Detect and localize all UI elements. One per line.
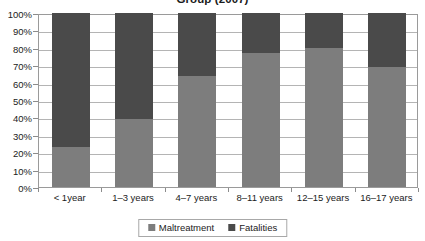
x-tick-label: < 1year (54, 192, 86, 203)
y-tick-label: 30% (13, 130, 32, 141)
y-tick-mark (33, 49, 38, 50)
y-tick-mark (33, 84, 38, 85)
y-tick-label: 80% (13, 43, 32, 54)
x-tick-label: 8–11 years (237, 192, 283, 203)
y-tick-mark (33, 14, 38, 15)
bar-group[interactable] (178, 13, 216, 187)
x-tick-mark (101, 188, 102, 192)
bar-segment-maltreatment[interactable] (305, 48, 343, 187)
legend-label: Maltreatment (159, 222, 214, 233)
chart-legend: MaltreatmentFatalities (138, 219, 287, 237)
gridline (39, 172, 417, 173)
x-tick-mark (38, 188, 39, 192)
x-tick-label: 12–15 years (297, 192, 349, 203)
y-tick-mark (33, 136, 38, 137)
bar-segment-fatalities[interactable] (305, 13, 343, 48)
legend-label: Fatalities (239, 222, 277, 233)
legend-item-fatalities[interactable]: Fatalities (228, 222, 277, 233)
bar-group[interactable] (115, 13, 153, 187)
x-tick-label: 16–17 years (360, 192, 412, 203)
y-tick-mark (33, 31, 38, 32)
bar-group[interactable] (305, 13, 343, 187)
bar-segment-fatalities[interactable] (178, 13, 216, 76)
x-tick-label: 4–7 years (175, 192, 217, 203)
x-tick-mark (291, 188, 292, 192)
x-axis: < 1year1–3 years4–7 years8–11 years12–15… (38, 192, 418, 208)
plot-area (38, 14, 418, 188)
bar-group[interactable] (368, 13, 406, 187)
y-tick-mark (33, 153, 38, 154)
y-tick-label: 20% (13, 148, 32, 159)
gridline (39, 154, 417, 155)
gridline (39, 50, 417, 51)
legend-swatch-icon (148, 224, 155, 231)
bar-segment-maltreatment[interactable] (52, 147, 90, 187)
gridline (39, 67, 417, 68)
gridline (39, 137, 417, 138)
bar-segment-maltreatment[interactable] (178, 76, 216, 187)
bar-segment-maltreatment[interactable] (242, 53, 280, 187)
x-tick-mark (355, 188, 356, 192)
gridline (39, 102, 417, 103)
x-tick-label: 1–3 years (112, 192, 154, 203)
y-tick-mark (33, 118, 38, 119)
bar-segment-fatalities[interactable] (52, 13, 90, 147)
y-tick-label: 100% (8, 9, 32, 20)
x-tick-mark (165, 188, 166, 192)
x-tick-mark (418, 188, 419, 192)
chart-title: Group (2007) (0, 0, 425, 7)
legend-swatch-icon (228, 224, 235, 231)
y-tick-label: 50% (13, 96, 32, 107)
bar-segment-fatalities[interactable] (115, 13, 153, 119)
bar-group[interactable] (52, 13, 90, 187)
gridline (39, 119, 417, 120)
y-axis: 100%90%80%70%60%50%40%30%20%10%0% (0, 14, 32, 188)
gridline (39, 32, 417, 33)
y-tick-mark (33, 66, 38, 67)
chart-container: Group (2007) 100%90%80%70%60%50%40%30%20… (0, 0, 425, 241)
y-tick-label: 40% (13, 113, 32, 124)
bar-segment-fatalities[interactable] (242, 13, 280, 53)
bar-segment-maltreatment[interactable] (115, 119, 153, 187)
y-tick-mark (33, 171, 38, 172)
bar-segment-fatalities[interactable] (368, 13, 406, 67)
legend-item-maltreatment[interactable]: Maltreatment (148, 222, 214, 233)
y-tick-label: 0% (18, 183, 32, 194)
bar-segment-maltreatment[interactable] (368, 67, 406, 187)
y-tick-label: 10% (13, 165, 32, 176)
x-tick-mark (228, 188, 229, 192)
y-tick-label: 70% (13, 61, 32, 72)
gridline (39, 85, 417, 86)
y-tick-mark (33, 101, 38, 102)
y-tick-label: 60% (13, 78, 32, 89)
bar-group[interactable] (242, 13, 280, 187)
y-tick-label: 90% (13, 26, 32, 37)
